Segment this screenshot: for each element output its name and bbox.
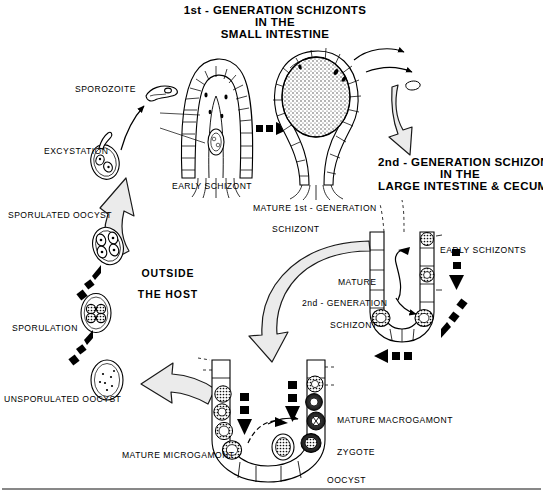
heading-outside-host: OUTSIDE THE HOST [114,267,222,300]
label-unsporulated-oocyst: UNSPORULATED OOCYST [4,394,121,404]
label-mature-second-generation-line3: SCHIZONT [330,320,378,330]
label-mature-microgamont: MATURE MICROGAMONT [122,450,235,460]
heading-outside-host-line1: OUTSIDE [114,267,222,279]
heading-first-generation-line3: SMALL INTESTINE [152,28,398,40]
heading-first-generation: 1st - GENERATION SCHIZONTS IN THE SMALL … [152,4,398,40]
dashed-arrow-unsporulated-to-sporulation [68,330,93,366]
dashed-arrow-to-gamogony [374,349,412,363]
sporozoite-figure [146,86,177,101]
label-mature-second-generation-line2: 2nd - GENERATION [302,298,387,308]
early-schizont-villus [160,59,253,198]
label-early-schizonts: EARLY SCHIZONTS [440,245,526,255]
dashed-arrow-schizont-progression-2 [441,298,468,338]
heading-second-generation: 2nd - GENERATION SCHIZONTS IN THE LARGE … [378,156,542,192]
life-cycle-diagram: 1st - GENERATION SCHIZONTS IN THE SMALL … [0,0,543,492]
second-generation-crypt [370,200,442,342]
merozoite-release-arrows [354,49,412,72]
dashed-arrow-into-microgamont [237,393,252,435]
free-merozoites [406,81,420,90]
block-arrow-schizont1-to-schizont2 [389,85,412,155]
label-excystation: EXCYSTATION [44,146,108,156]
gamogony-crypt [198,358,334,482]
mature-first-generation-schizont-villus [273,48,361,200]
sporulation-oocyst-figure [81,294,111,333]
heading-first-generation-line1: 1st - GENERATION SCHIZONTS [152,4,398,16]
label-oocyst: OOCYST [327,475,366,485]
label-sporulation: SPORULATION [12,323,78,333]
dashed-arrow-into-macrogamont [285,381,300,422]
label-sporozoite: SPOROZOITE [75,84,136,94]
dashed-arrow-schizont-progression-1 [449,249,464,290]
heading-outside-host-line2: THE HOST [114,288,222,300]
heading-second-generation-line3: LARGE INTESTINE & CECUM [378,180,542,192]
label-mature-second-generation-line1: MATURE [338,277,376,287]
label-sporulated-oocyst: SPORULATED OOCYST [8,210,112,220]
label-mature-macrogamont: MATURE MACROGAMONT [337,415,453,425]
label-early-schizont: EARLY SCHIZONT [172,181,252,191]
label-zygote: ZYGOTE [337,447,375,457]
label-mature-first-generation-line1: MATURE 1st - GENERATION [253,203,377,213]
arrow-excystation-to-sporozoite [121,106,144,150]
heading-first-generation-line2: IN THE [152,16,398,28]
block-arrow-gamogony-to-oocyst [141,363,215,404]
heading-second-generation-line2: IN THE [378,168,542,180]
excystation-figure [87,132,123,182]
label-mature-first-generation-line2: SCHIZONT [272,224,320,234]
heading-second-generation-line1: 2nd - GENERATION SCHIZONTS [378,156,542,168]
